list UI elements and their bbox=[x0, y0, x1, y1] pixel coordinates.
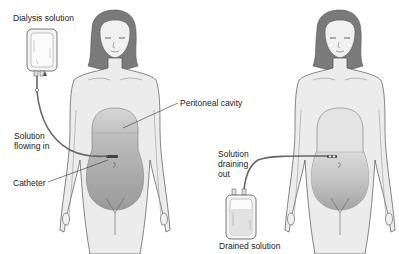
label-peritoneal-cavity: Peritoneal cavity bbox=[180, 98, 242, 108]
figure-right bbox=[285, 10, 395, 254]
label-solution-flowing-in: Solution flowing in bbox=[14, 131, 49, 151]
hand-icon bbox=[288, 213, 295, 225]
figure-left bbox=[60, 10, 170, 254]
hand-icon bbox=[161, 213, 168, 225]
label-solution-draining-out: Solution draining out bbox=[218, 149, 249, 179]
drained-solution-bag-icon bbox=[226, 189, 256, 239]
peritoneal-cavity-icon bbox=[86, 108, 143, 210]
dialysis-solution-bag-icon bbox=[27, 29, 57, 76]
label-catheter: Catheter bbox=[13, 178, 46, 188]
label-dialysis-solution: Dialysis solution bbox=[13, 13, 74, 23]
diagram-illustration bbox=[0, 0, 399, 254]
peritoneal-dialysis-diagram: Dialysis solution Peritoneal cavity Solu… bbox=[0, 0, 399, 254]
hand-icon bbox=[386, 213, 393, 225]
label-drained-solution: Drained solution bbox=[219, 241, 280, 251]
hand-icon bbox=[63, 213, 70, 225]
